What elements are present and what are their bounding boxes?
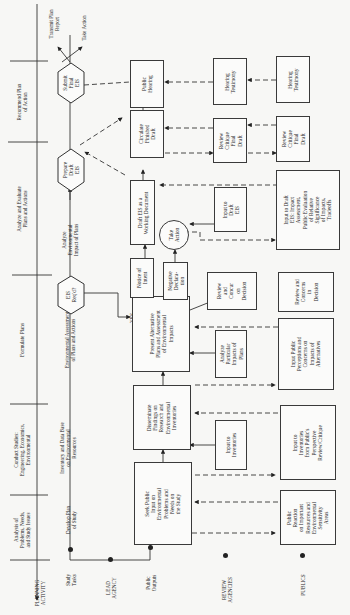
box-notice-of-intent: Notice of Intent xyxy=(130,258,154,298)
box-public-hearing: Public Hearing xyxy=(130,60,164,108)
box-seek-public-input: Seek Public Input on Environmental Probl… xyxy=(134,462,192,545)
decision-prepare-draft-eis: Prepare Draft EIS xyxy=(57,148,85,192)
row-label-lead-agency: LEAD AGENCY xyxy=(100,570,122,605)
decision-submit-final-eis: Submit Final EIS xyxy=(57,62,85,104)
box-draft-eis-working-document: Draft EIS as a Working Document xyxy=(130,180,155,245)
box-hearing-testimony-agencies: Hearing Testimony xyxy=(213,58,247,105)
output-transmit-plan-report: Transmit Plan Report xyxy=(44,2,64,46)
study-task-inventory: Inventory and Data Base on Environmental… xyxy=(52,405,84,490)
box-review-critique-final-draft-publics: Review Critique Final Draft xyxy=(276,116,310,162)
box-disseminate-findings: Disseminate Findings on Research and Env… xyxy=(133,385,191,450)
row-label-publics: PUBLICS xyxy=(292,565,314,605)
box-review-concur-decision: Review and Concur on Decision xyxy=(207,272,257,310)
box-hearing-testimony-publics: Hearing Testimony xyxy=(276,56,310,103)
box-input-from-publics-perspective: Input to Inventories from Public's Persp… xyxy=(280,405,336,480)
box-public-reaction: Public Reaction on Important Resources a… xyxy=(280,490,336,545)
dot-public-outputs xyxy=(148,545,153,550)
environmental-planning-flowchart: Analysis of Problems, Needs, and Study I… xyxy=(0,0,350,615)
box-review-concerns-decision: Review and Concerns in Decision xyxy=(278,272,334,312)
row-label-public-outputs: Public Outputs xyxy=(140,565,162,600)
decision-eis-required: EIS Req'd? xyxy=(57,275,85,315)
box-input-to-draft-eis: Input to Draft EIS xyxy=(214,187,247,232)
dot-study-tasks xyxy=(68,547,73,552)
box-input-draft-eis-impact: Input to Draft EIS: Impact Assessment, P… xyxy=(276,170,340,250)
output-take-action: Take Action xyxy=(78,10,90,46)
phase-label-conduct-studies: Conduct Studies: Engineering, Economics,… xyxy=(8,405,36,495)
study-task-analyze-impact: Analyze Environmental Impact of Plans xyxy=(54,210,86,270)
row-label-planning-activity: PLANNING ACTIVITY xyxy=(28,570,52,615)
box-input-public-perceptions: Input Public Perceptions and Concerns on… xyxy=(278,318,334,390)
phase-label-analysis: Analysis of Problems, Needs, and Study I… xyxy=(8,495,36,565)
box-negative-declaration: Negative Declara- tion xyxy=(163,262,188,300)
dot-review-agencies xyxy=(223,553,228,558)
box-review-critique-final-draft-agencies: Review Critique Final Draft xyxy=(213,118,247,163)
circle-take-action: Take Action xyxy=(159,220,189,250)
box-input-to-inventories: Input to Inventories xyxy=(215,420,247,470)
box-analyze-particular-impacts: Analyze Particular Impacts of Plans xyxy=(215,330,247,378)
row-label-review-agencies: REVIEW AGENCIES xyxy=(216,565,238,615)
row-label-study-tasks: Study Tasks xyxy=(60,565,82,595)
phase-label-formulate-plans: Formulate Plans xyxy=(10,275,34,405)
phase-label-analyze-evaluate: Analyze and Evaluate Plans and Actions xyxy=(8,142,36,275)
dot-publics xyxy=(300,553,305,558)
dot-lead-agency xyxy=(108,557,113,562)
phase-label-recommend: Recommend Plan of Action xyxy=(8,62,36,142)
box-present-alternative-plans: Present Alternative Plans and Assessment… xyxy=(132,296,190,372)
study-task-develop-plan: Develop Plan of Study xyxy=(60,495,82,545)
box-circulate-finished-draft: Circulate Finished Draft xyxy=(130,110,164,158)
